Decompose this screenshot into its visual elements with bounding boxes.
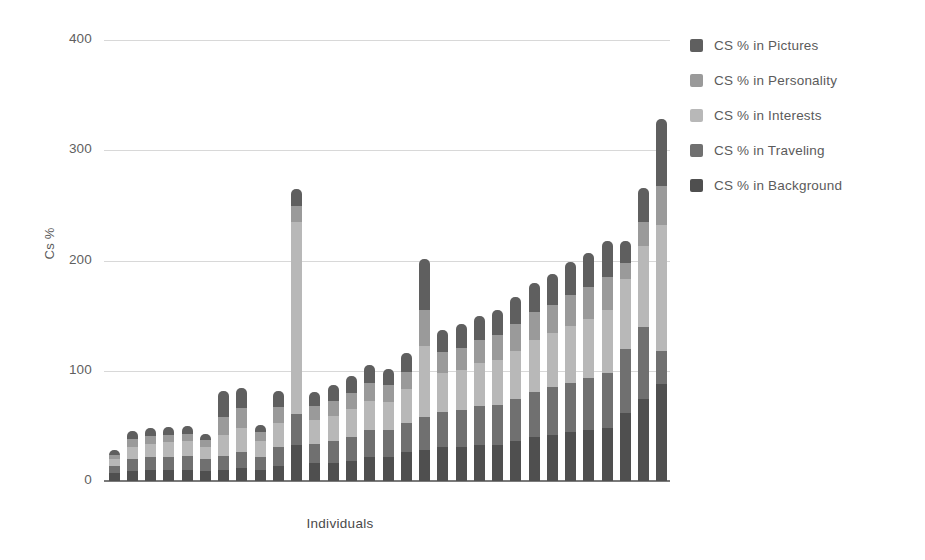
bar [565, 262, 576, 481]
bar-segment [583, 253, 594, 287]
bar-segment [602, 277, 613, 310]
bar-segment [236, 388, 247, 408]
legend-swatch-icon [690, 179, 703, 192]
bar [200, 434, 211, 481]
legend-item[interactable]: CS % in Background [690, 168, 920, 203]
bar-segment [236, 408, 247, 428]
bar-segment [510, 351, 521, 400]
bar-segment [602, 241, 613, 277]
bar-segment [163, 457, 174, 470]
bar-segment [200, 471, 211, 481]
bar-segment [182, 434, 193, 442]
bar [656, 119, 667, 481]
bar-segment [602, 428, 613, 481]
bar-segment [328, 441, 339, 463]
bar [218, 391, 229, 481]
bar-segment [529, 437, 540, 481]
legend-item[interactable]: CS % in Personality [690, 63, 920, 98]
bar-segment [218, 470, 229, 481]
bar-segment [529, 392, 540, 437]
bar [529, 283, 540, 481]
bar-segment [127, 471, 138, 481]
bar-segment [547, 387, 558, 434]
bar-segment [383, 457, 394, 481]
bar-segment [145, 428, 156, 436]
legend-item[interactable]: CS % in Traveling [690, 133, 920, 168]
bar-segment [255, 432, 266, 441]
bar-segment [401, 353, 412, 372]
y-tick-label: 400 [46, 31, 92, 46]
bar-segment [255, 441, 266, 456]
bar-segment [510, 399, 521, 441]
bar-segment [346, 437, 357, 461]
bar-segment [510, 324, 521, 350]
bar-segment [364, 457, 375, 481]
bar-segment [437, 373, 448, 412]
legend-item[interactable]: CS % in Pictures [690, 28, 920, 63]
bar [109, 450, 120, 481]
legend-item-label: CS % in Pictures [714, 38, 818, 53]
bar-segment [218, 391, 229, 417]
stacked-bar-chart: Cs % 0100200300400 Individuals CS % in P… [0, 0, 925, 560]
bar-segment [364, 401, 375, 431]
bar-segment [583, 319, 594, 379]
bar-segment [364, 430, 375, 456]
bar-segment [638, 188, 649, 222]
bar-segment [127, 431, 138, 439]
bar [547, 274, 558, 481]
bar-segment [547, 333, 558, 387]
bar-segment [529, 312, 540, 340]
bar-segment [182, 426, 193, 434]
legend-swatch-icon [690, 144, 703, 157]
bar [401, 353, 412, 481]
bar-segment [656, 225, 667, 351]
bar-segment [109, 459, 120, 466]
bar-segment [419, 310, 430, 346]
bar-segment [419, 346, 430, 417]
bar-segment [346, 376, 357, 393]
legend-item-label: CS % in Interests [714, 108, 822, 123]
bar-segment [346, 409, 357, 437]
bar [456, 324, 467, 481]
bar-segment [638, 399, 649, 481]
bar-segment [200, 447, 211, 459]
bar-segment [510, 441, 521, 481]
legend-item-label: CS % in Personality [714, 73, 837, 88]
bar [182, 426, 193, 481]
bar-segment [109, 466, 120, 474]
bar-segment [437, 330, 448, 352]
bar-segment [200, 434, 211, 441]
bar-segment [620, 279, 631, 348]
bar-segment [547, 435, 558, 481]
bar-segment [620, 263, 631, 280]
bar-segment [309, 463, 320, 481]
bar-segment [492, 445, 503, 481]
bar-segment [401, 423, 412, 453]
bar-segment [145, 470, 156, 481]
bar-segment [218, 435, 229, 456]
bars-container [104, 40, 670, 481]
bar-segment [255, 457, 266, 470]
legend-item-label: CS % in Traveling [714, 143, 825, 158]
bar-segment [328, 463, 339, 481]
bar-segment [364, 383, 375, 401]
legend-item-label: CS % in Background [714, 178, 842, 193]
legend-item[interactable]: CS % in Interests [690, 98, 920, 133]
bar-segment [638, 246, 649, 326]
legend-swatch-icon [690, 74, 703, 87]
bar-segment [492, 405, 503, 445]
bar [273, 391, 284, 481]
bar [291, 189, 302, 481]
bar-segment [236, 468, 247, 481]
bar-segment [236, 452, 247, 467]
bar [510, 297, 521, 481]
bar-segment [492, 335, 503, 359]
bar-segment [383, 430, 394, 456]
bar-segment [127, 447, 138, 459]
bar-segment [656, 384, 667, 481]
bar-segment [291, 414, 302, 445]
bar-segment [236, 428, 247, 452]
bar-segment [456, 324, 467, 347]
bar [492, 310, 503, 481]
legend-swatch-icon [690, 109, 703, 122]
